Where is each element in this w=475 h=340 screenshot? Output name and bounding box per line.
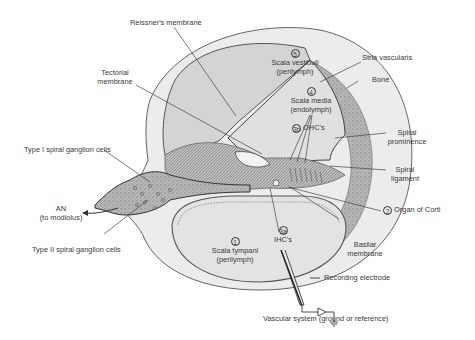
number-4: 4	[307, 87, 316, 96]
cochlea-diagram: Reissner's membrane Tectorial membrane S…	[0, 0, 475, 340]
label-reissners-membrane: Reissner's membrane	[130, 18, 202, 27]
label-type1-ganglion: Type I spiral ganglion cells	[24, 145, 111, 154]
label-organ-of-corti: 2 Organ of Corti	[383, 205, 440, 215]
label-vascular-system: Vascular system (ground or reference)	[263, 314, 389, 323]
label-spiral-ligament: Spiral ligament	[385, 165, 425, 183]
label-tectorial-membrane: Tectorial membrane	[91, 68, 139, 86]
label-bone: Bone	[372, 75, 389, 84]
label-ihcs: 3a IHC's	[268, 225, 298, 244]
label-scala-tympani: 1 Scala tympani (perilymph)	[200, 236, 270, 264]
label-scala-media: 4 Scala media (endolymph)	[281, 86, 341, 114]
label-spiral-prominence: Spiral prominence	[382, 128, 432, 146]
label-an: AN (to modiolus)	[36, 204, 86, 222]
label-type2-ganglion: Type II spiral ganglion cells	[32, 245, 121, 254]
label-stria-vascularis: Stria vascularis	[362, 53, 412, 62]
number-3b: 3b	[292, 124, 301, 133]
number-5: 5	[291, 49, 300, 58]
ihc-body	[273, 180, 279, 186]
label-ohcs: 3b OHC's	[292, 123, 325, 133]
number-3a: 3a	[279, 226, 288, 235]
label-basilar-membrane: Basilar membrane	[340, 240, 390, 258]
number-1: 1	[231, 237, 240, 246]
number-2: 2	[383, 206, 392, 215]
label-scala-vestibuli: 5 Scala vestibuli (perilymph)	[260, 48, 330, 76]
label-recording-electrode: Recording electrode	[324, 273, 390, 282]
